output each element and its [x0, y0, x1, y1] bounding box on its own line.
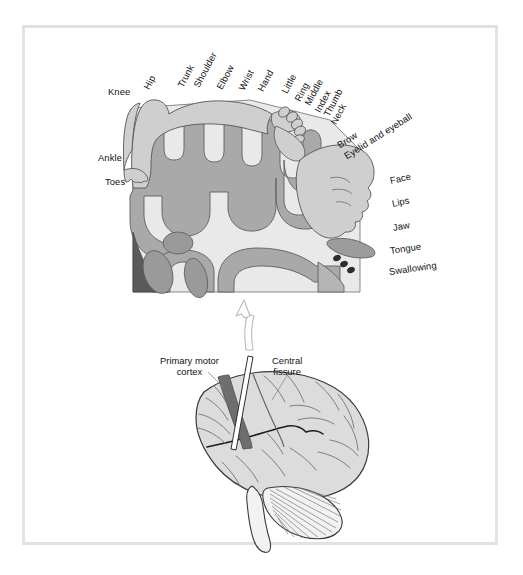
homunculus-label-toes: Toes — [105, 177, 125, 186]
connector-arrow-icon — [236, 300, 254, 350]
brain-label-line2: cortex — [160, 366, 219, 377]
cerebrum — [196, 372, 369, 500]
homunculus-face — [296, 145, 374, 238]
brain-label-line1: Primary motor — [160, 355, 219, 366]
deep-nucleus-oval-1 — [163, 232, 193, 254]
brain-label-central-fissure: Centralfissure — [272, 355, 302, 377]
homunculus-panel — [123, 100, 374, 300]
brain-label-line1: Central — [272, 355, 302, 366]
homunculus-label-knee: Knee — [108, 87, 130, 96]
brain-label-primary-motor-cortex: Primary motorcortex — [160, 355, 219, 377]
brain-label-line2: fissure — [272, 366, 302, 377]
brain-panel — [196, 356, 369, 552]
homunculus-label-ankle: Ankle — [98, 153, 122, 162]
